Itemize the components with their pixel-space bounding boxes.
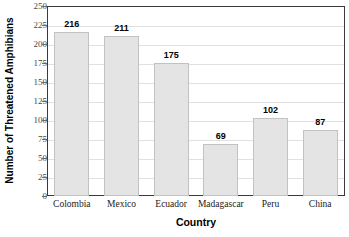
x-tick-label: Peru xyxy=(246,199,296,209)
bar-value-label: 216 xyxy=(54,20,89,29)
x-tick-label: Mexico xyxy=(97,199,147,209)
y-tick-label: 125 xyxy=(7,97,47,106)
x-tick-label: Colombia xyxy=(47,199,97,209)
y-tick-mark xyxy=(42,196,47,197)
y-tick-label: 0 xyxy=(7,192,47,201)
bar-group[interactable]: 102 xyxy=(253,6,288,196)
x-tick-label: Ecuador xyxy=(146,199,196,209)
y-tick-label: 200 xyxy=(7,40,47,49)
y-tick-label: 25 xyxy=(7,173,47,182)
bar-value-label: 69 xyxy=(203,132,238,141)
bar-group[interactable]: 175 xyxy=(154,6,189,196)
y-tick-label: 75 xyxy=(7,135,47,144)
y-tick-label: 50 xyxy=(7,154,47,163)
y-tick-label: 100 xyxy=(7,116,47,125)
bar-value-label: 102 xyxy=(253,106,288,115)
y-tick-label: 150 xyxy=(7,78,47,87)
bar-group[interactable]: 216 xyxy=(54,6,89,196)
y-tick-label: 175 xyxy=(7,59,47,68)
bars-layer: 2162111756910287 xyxy=(47,6,345,196)
bar[interactable] xyxy=(104,36,139,196)
bar[interactable] xyxy=(303,130,338,196)
bar-chart: Number of Threatened Amphibians 25022520… xyxy=(0,0,349,237)
bar[interactable] xyxy=(253,118,288,196)
bar[interactable] xyxy=(203,144,238,196)
x-tick-label: China xyxy=(295,199,345,209)
y-axis-ticks: 2502252001751501251007550250 xyxy=(0,6,47,196)
bar-group[interactable]: 211 xyxy=(104,6,139,196)
x-tick-label: Madagascar xyxy=(196,199,246,209)
bar-group[interactable]: 69 xyxy=(203,6,238,196)
y-tick-label: 225 xyxy=(7,21,47,30)
bar-group[interactable]: 87 xyxy=(303,6,338,196)
bar-value-label: 211 xyxy=(104,24,139,33)
bar[interactable] xyxy=(154,63,189,196)
bar[interactable] xyxy=(54,32,89,196)
bar-value-label: 87 xyxy=(303,118,338,127)
bar-value-label: 175 xyxy=(154,51,189,60)
x-axis-labels: ColombiaMexicoEcuadorMadagascarPeruChina xyxy=(47,199,345,215)
x-axis-title: Country xyxy=(47,216,345,228)
y-tick-label: 250 xyxy=(7,2,47,11)
